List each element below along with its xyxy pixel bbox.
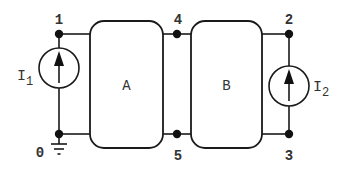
i2-label-sub: 2	[322, 86, 329, 100]
node-4-dot	[173, 30, 181, 38]
node-0-label: 0	[36, 145, 44, 161]
i2-label: I2	[313, 79, 329, 100]
node-2-label: 2	[285, 12, 293, 28]
node-3-label: 3	[285, 148, 293, 164]
node-0-dot	[55, 130, 63, 138]
block-b-label: B	[222, 78, 230, 94]
middle-wires	[162, 34, 192, 134]
i1-label-main: I	[17, 68, 26, 85]
node-3-dot	[285, 130, 293, 138]
block-a: A	[90, 21, 163, 148]
circuit-diagram: A B I1 I2 1 0 4 5 2	[0, 0, 348, 170]
node-1-label: 1	[55, 12, 63, 28]
node-5-label: 5	[174, 148, 182, 164]
current-source-i2: I2	[269, 66, 329, 106]
node-5-dot	[173, 130, 181, 138]
node-1-dot	[55, 30, 63, 38]
node-2-dot	[285, 30, 293, 38]
current-source-i1: I1	[17, 48, 79, 89]
block-a-label: A	[122, 78, 131, 94]
i1-label-sub: 1	[26, 75, 33, 89]
i1-label: I1	[17, 68, 33, 89]
i2-label-main: I	[313, 79, 322, 96]
node-4-label: 4	[174, 12, 182, 28]
block-b: B	[191, 21, 262, 148]
